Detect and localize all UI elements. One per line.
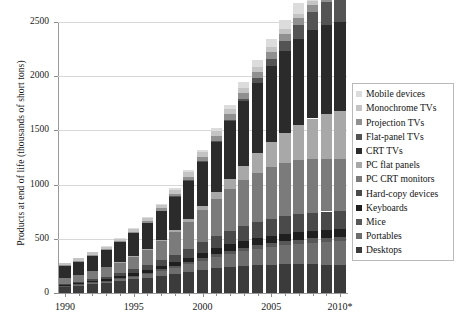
bar-segment [266,236,277,243]
bar-segment [87,271,98,279]
legend-item[interactable]: PC flat panels [356,158,451,172]
bar-segment [169,194,180,197]
bar-segment [183,264,194,271]
bar [224,105,235,293]
bar-segment [224,109,235,114]
bar-segment [156,260,167,266]
bar-segment [73,258,84,261]
bar-segment [224,267,235,293]
bar-segment [128,273,139,275]
bar [238,82,249,293]
bar-segment [266,142,277,167]
bar-segment [197,242,208,253]
legend-item-label: Keyboards [366,203,408,213]
legend-swatch-icon [356,219,362,225]
bar-segment [321,0,332,2]
bar-segment [211,254,222,257]
bar-segment [183,262,194,264]
bar-segment [224,114,235,120]
bar [321,0,332,293]
bar-segment [238,93,249,99]
bar-segment [321,265,332,293]
bar-segment [252,245,263,249]
bar-segment [293,240,304,244]
bar-segment [169,262,180,266]
legend-item-label: PC flat panels [366,160,420,170]
x-tick-mark [340,293,341,297]
bar-segment [252,83,263,154]
bar-segment [101,279,112,281]
bar-segment [321,25,332,114]
bar-segment [266,243,277,247]
bar-segment [87,256,98,271]
legend-swatch-icon [356,134,362,140]
x-tick-mark [271,293,272,297]
x-tick-label: 2000 [178,301,228,312]
bar-segment [224,244,235,250]
legend-item[interactable]: Desktops [356,243,451,257]
bar-segment [114,276,125,278]
bar-segment [59,266,70,278]
legend-item[interactable]: Portables [356,229,451,243]
bar-segment [279,163,290,216]
bar-segment [334,211,345,230]
bar-segment [334,0,345,22]
bar-segment [238,266,249,293]
bar-segment [59,285,70,286]
bar-segment [238,251,249,265]
bar-segment [224,105,235,110]
legend-item[interactable]: Flat-panel TVs [356,130,451,144]
bar-segment [114,238,125,241]
legend-swatch-icon [356,233,362,239]
bar-segment [183,219,194,222]
bar-segment [224,179,235,189]
bar-segment [224,121,235,178]
bar-segment [307,5,318,12]
bar-segment [142,249,153,265]
legend-item[interactable]: Mobile devices [356,87,451,101]
legend-item[interactable]: Monochrome TVs [356,101,451,115]
y-tick-label: 500 [0,233,49,243]
legend-item[interactable]: CRT TVs [356,144,451,158]
bar-segment [128,228,139,231]
x-tick-label: 2010* [315,301,365,312]
bar-segment [293,244,304,265]
bar-segment [224,120,235,122]
bar-segment [307,213,318,231]
bar-segment [293,232,304,240]
bar [197,150,208,293]
bar-segment [197,152,208,157]
bar-segment [211,236,222,248]
legend-item[interactable]: Projection TVs [356,115,451,129]
bar-segment [252,173,263,222]
x-tick-mark-minor [258,293,259,296]
bar-segment [266,52,277,59]
bar-segment [183,222,194,249]
bar-segment [101,249,112,250]
x-tick-mark-minor [299,293,300,296]
bar-segment [142,270,153,273]
bar-segment [321,212,332,230]
chart-root: Products at end of life (thousands of sh… [0,0,458,335]
bar-segment [156,241,167,260]
x-tick-mark [134,293,135,297]
bar-segment [169,274,180,293]
bar-segment [87,284,98,293]
bar-segment [197,261,208,270]
bar [169,188,180,293]
legend-swatch-icon [356,148,362,154]
legend-item[interactable]: PC CRT monitors [356,172,451,186]
bar-segment [211,257,222,268]
x-tick-mark [65,293,66,297]
bar-segment [101,281,112,282]
bar-segment [128,279,139,293]
bar-segment [321,238,332,242]
bar-segment [279,264,290,293]
bar-segment [183,272,194,293]
legend-item[interactable]: Keyboards [356,201,451,215]
bar-segment [142,223,153,249]
bar-segment [252,67,263,72]
legend-item[interactable]: Hard-copy devices [356,186,451,200]
legend-item[interactable]: Mice [356,215,451,229]
bar-segment [266,66,277,143]
